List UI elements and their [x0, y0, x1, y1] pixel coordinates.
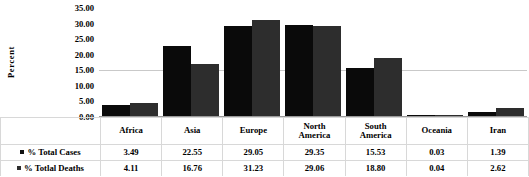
y-axis-tick: 30.00 [30, 19, 94, 28]
legend-swatch-icon [17, 166, 21, 170]
header-line: Oceania [407, 126, 467, 136]
cell-cases-south-america: 15.53 [345, 145, 406, 161]
cell-cases-asia: 22.55 [162, 145, 223, 161]
table-header-oceania: Oceania [406, 118, 467, 145]
header-line: Asia [162, 126, 222, 136]
bar [130, 103, 158, 116]
table-header-iran: Iran [467, 118, 528, 145]
bar-group [160, 8, 221, 116]
bar [191, 64, 219, 116]
cell-deaths-south-america: 18.80 [345, 161, 406, 177]
cell-deaths-north-america: 29.06 [284, 161, 345, 177]
data-table-wrapper: Africa Asia Europe North America South A [0, 117, 529, 176]
bar [435, 115, 463, 116]
table-header-row: Africa Asia Europe North America South A [1, 118, 529, 145]
bar-groups [99, 8, 527, 116]
header-line: Africa [101, 126, 161, 136]
table-header-africa: Africa [101, 118, 162, 145]
bar [252, 20, 280, 116]
cell-deaths-asia: 16.76 [162, 161, 223, 177]
header-line: America [284, 131, 344, 141]
bar-group [466, 8, 527, 116]
bar-group [344, 8, 405, 116]
y-axis-tick: 15.00 [30, 66, 94, 75]
bar-group [221, 8, 282, 116]
table-header-south-america: South America [345, 118, 406, 145]
chart-screenshot: Percent 35.00 30.00 25.00 20.00 15.00 10… [0, 0, 529, 176]
header-line: Europe [223, 126, 283, 136]
bar [163, 46, 191, 116]
bar [285, 25, 313, 116]
cell-deaths-europe: 31.23 [223, 161, 284, 177]
bar [407, 115, 435, 116]
bar [346, 68, 374, 116]
legend-label: % Totlal Deaths [24, 163, 84, 173]
table-row-total-deaths: % Totlal Deaths 4.11 16.76 31.23 29.06 1… [1, 161, 529, 177]
plot-area [99, 8, 527, 117]
y-axis-title-text: Percent [6, 46, 16, 78]
table-header-europe: Europe [223, 118, 284, 145]
data-table: Africa Asia Europe North America South A [0, 117, 529, 176]
bar [468, 112, 496, 116]
cell-cases-oceania: 0.03 [406, 145, 467, 161]
y-axis-tick: 25.00 [30, 35, 94, 44]
legend-swatch-icon [20, 150, 24, 154]
y-axis-tick: 35.00 [30, 4, 94, 13]
bar [313, 26, 341, 116]
y-axis-tick: 5.00 [30, 97, 94, 106]
table-corner-cell [1, 118, 101, 145]
cell-cases-africa: 3.49 [101, 145, 162, 161]
cell-cases-north-america: 29.35 [284, 145, 345, 161]
table-header-asia: Asia [162, 118, 223, 145]
bar [102, 105, 130, 116]
cell-deaths-iran: 2.62 [467, 161, 528, 177]
y-axis-title: Percent [2, 14, 20, 110]
header-line: Iran [468, 126, 528, 136]
bar-group [405, 8, 466, 116]
bar [496, 108, 524, 116]
cell-cases-europe: 29.05 [223, 145, 284, 161]
cell-cases-iran: 1.39 [467, 145, 528, 161]
legend-item-total-cases: % Total Cases [1, 145, 101, 161]
plot-inner [99, 8, 527, 117]
bar-group [99, 8, 160, 116]
table-header-north-america: North America [284, 118, 345, 145]
y-axis-tick-labels: 35.00 30.00 25.00 20.00 15.00 10.00 5.00… [30, 0, 96, 122]
bar [224, 26, 252, 116]
cell-deaths-africa: 4.11 [101, 161, 162, 177]
y-axis-tick: 20.00 [30, 50, 94, 59]
cell-deaths-oceania: 0.04 [406, 161, 467, 177]
bar [374, 58, 402, 116]
header-line: America [346, 131, 406, 141]
table-row-total-cases: % Total Cases 3.49 22.55 29.05 29.35 15.… [1, 145, 529, 161]
bar-group [282, 8, 343, 116]
y-axis-tick: 10.00 [30, 81, 94, 90]
legend-label: % Total Cases [27, 147, 80, 157]
legend-item-total-deaths: % Totlal Deaths [1, 161, 101, 177]
